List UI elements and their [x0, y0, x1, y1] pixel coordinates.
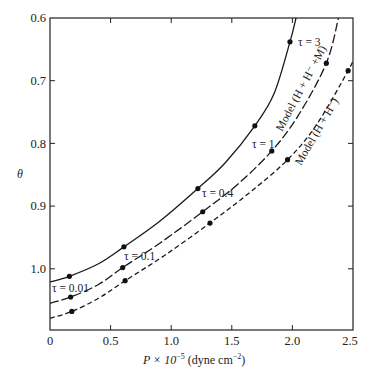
data-point — [195, 186, 200, 191]
label-tau-0.01: τ = 0.01 — [52, 282, 89, 294]
data-point — [252, 123, 257, 128]
data-point — [69, 309, 74, 314]
y-tick-labels: 0.6 0.7 0.8 0.9 1.0 — [30, 11, 46, 276]
x-tick-labels: 0 0.5 1.0 1.5 2.0 2.5 — [47, 334, 358, 348]
y-tick-0.7: 0.7 — [30, 74, 46, 88]
label-tau-0.4: τ = 0.4 — [202, 187, 233, 199]
chart: 0.6 0.7 0.8 0.9 1.0 0 0.5 1.0 1.5 2.0 2.… — [0, 0, 373, 379]
data-point — [67, 274, 72, 279]
x-tick-2.0: 2.0 — [285, 334, 301, 348]
y-tick-0.8: 0.8 — [30, 137, 46, 151]
y-tick-0.6: 0.6 — [30, 11, 46, 25]
data-point — [200, 209, 205, 214]
x-axis-title: P × 10−5 (dyne cm−2) — [142, 352, 245, 367]
y-tick-1.0: 1.0 — [30, 262, 46, 276]
y-tick-0.9: 0.9 — [30, 199, 46, 213]
x-tick-0.5: 0.5 — [103, 334, 119, 348]
x-tick-2.5: 2.5 — [342, 334, 358, 348]
label-tau-0.1: τ = 0.1 — [124, 250, 155, 262]
x-tick-0: 0 — [47, 334, 53, 348]
x-tick-1.0: 1.0 — [163, 334, 179, 348]
data-point — [120, 265, 125, 270]
data-point — [123, 278, 128, 283]
data-point — [287, 39, 292, 44]
x-tick-1.5: 1.5 — [224, 334, 240, 348]
data-point — [346, 68, 351, 73]
y-axis-title: θ — [17, 167, 23, 181]
data-point — [324, 61, 329, 66]
data-point — [68, 294, 73, 299]
label-tau-1: τ = 1 — [252, 138, 275, 150]
data-point — [207, 220, 212, 225]
data-point — [121, 244, 126, 249]
label-model-h-hminus: Model (H + H⁻) — [292, 95, 341, 167]
data-point — [285, 157, 290, 162]
